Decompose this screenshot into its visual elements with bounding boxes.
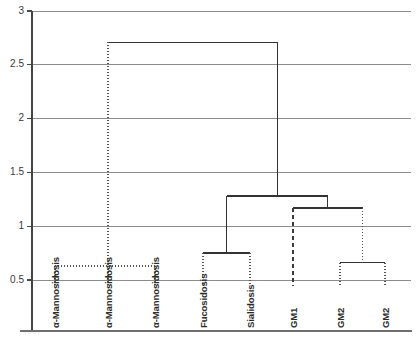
leaf-label: Fucosidosis: [198, 274, 209, 328]
leaf-label: α-Mannosidosis: [50, 257, 61, 328]
leaf-label: α-Mannosidosis: [150, 257, 161, 328]
y-axis-tick-label: 1: [18, 220, 24, 231]
y-axis-tick-label: 2.5: [10, 58, 24, 69]
axis-ticks-group: [27, 11, 32, 280]
leaf-label: GM2: [380, 308, 391, 328]
dendrogram-chart: 32.521.510.5 α-Mannosidosisα-Mannosidosi…: [0, 0, 416, 340]
leaf-labels: α-Mannosidosisα-Mannosidosisα-Mannosidos…: [50, 257, 391, 328]
y-axis-tick-label: 3: [18, 5, 24, 16]
y-axis-tick-labels: 32.521.510.5: [10, 5, 24, 285]
leaf-label: GM2: [335, 308, 346, 328]
dendrogram-plot: 32.521.510.5 α-Mannosidosisα-Mannosidosi…: [0, 0, 416, 340]
gridlines-group: [32, 11, 411, 280]
leaf-label: Sialidosis: [245, 285, 256, 328]
y-axis-tick-label: 1.5: [10, 166, 24, 177]
leaf-label: α-Mannosidosis: [103, 257, 114, 328]
dendrogram-links: [55, 42, 385, 286]
y-axis-tick-label: 0.5: [10, 274, 24, 285]
leaf-label: GM1: [288, 307, 299, 328]
y-axis-tick-label: 2: [18, 112, 24, 123]
